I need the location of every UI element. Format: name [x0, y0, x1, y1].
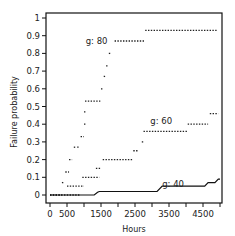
y-tick-label: 0.9: [26, 31, 40, 41]
plot-frame: [46, 13, 222, 203]
x-axis-label: Hours: [122, 225, 145, 234]
y-tick-label: 0.6: [26, 84, 40, 94]
series-g-40: g: 40: [50, 179, 220, 195]
x-axis: 05001500250035004500: [47, 203, 220, 219]
y-tick-label: 1: [35, 13, 40, 23]
y-tick-label: 0.5: [26, 102, 40, 112]
plot-border: [46, 13, 222, 203]
y-axis: 00.10.20.30.40.50.60.70.80.91: [26, 13, 46, 200]
series-g-60: g: 60: [50, 114, 218, 195]
y-tick-label: 0.8: [26, 48, 40, 58]
x-tick-label: 2500: [124, 209, 146, 219]
series-g-80: g: 80: [50, 30, 217, 195]
y-tick-label: 0.7: [26, 66, 40, 76]
series-label: g: 40: [162, 179, 184, 189]
series-layer: g: 80g: 60g: 40: [50, 30, 220, 195]
x-tick-label: 3500: [158, 209, 180, 219]
y-tick-label: 0: [35, 190, 40, 200]
y-tick-label: 0.1: [26, 172, 40, 182]
series-label: g: 80: [86, 36, 108, 46]
x-tick-label: 4500: [192, 209, 214, 219]
y-axis-label: Failure probability: [10, 76, 19, 148]
failure-probability-chart: 00.10.20.30.40.50.60.70.80.91 0500150025…: [0, 0, 235, 236]
x-tick-label: 0: [47, 209, 52, 219]
y-tick-label: 0.2: [26, 155, 40, 165]
series-label: g: 60: [150, 116, 172, 126]
x-tick-label: 1500: [90, 209, 112, 219]
x-tick-label: 500: [59, 209, 75, 219]
y-tick-label: 0.4: [26, 119, 40, 129]
y-tick-label: 0.3: [26, 137, 40, 147]
step-line: [50, 179, 220, 195]
